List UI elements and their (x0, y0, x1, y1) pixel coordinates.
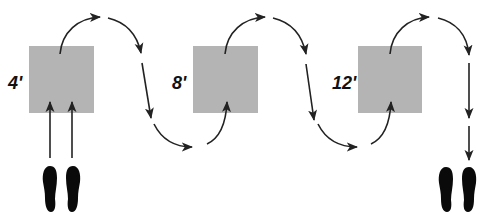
path-arc-7 (318, 124, 357, 147)
marker-square-4ft (29, 46, 94, 113)
path-arc-2 (108, 18, 141, 53)
marker-square-12ft (358, 46, 422, 113)
footprints-start-icon (43, 166, 80, 212)
path-arc-3 (154, 124, 192, 147)
path-line-1 (142, 63, 151, 118)
distance-label-8ft: 8' (172, 74, 186, 92)
path-arc-10 (438, 18, 469, 55)
distance-label-12ft: 12' (332, 74, 356, 92)
marker-square-8ft (193, 46, 258, 113)
walking-course-diagram: 4' 8' 12' (0, 0, 486, 214)
footprints-end-icon (439, 167, 476, 212)
diagram-canvas (0, 0, 486, 214)
path-line-2 (306, 64, 314, 120)
distance-label-4ft: 4' (8, 74, 22, 92)
path-arc-6 (273, 18, 306, 54)
